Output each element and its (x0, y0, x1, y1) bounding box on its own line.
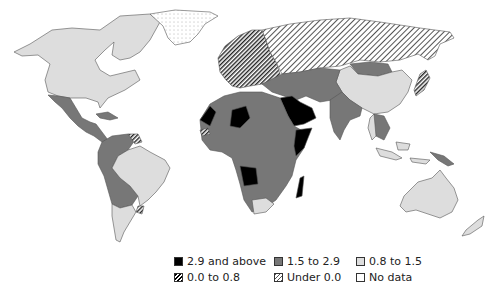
legend-item-0-8-to-1-5: 0.8 to 1.5 (356, 255, 422, 268)
region-indonesia (376, 142, 430, 164)
region-papua-new-guinea (430, 152, 454, 166)
legend-item-under-0-0: Under 0.0 (274, 271, 350, 284)
legend-swatch-black (174, 257, 183, 266)
legend-item-no-data: No data (356, 271, 412, 284)
legend-swatch-sparse-hatch (274, 273, 283, 282)
region-somalia (294, 128, 312, 156)
region-new-zealand (462, 216, 484, 236)
region-north-america (14, 14, 160, 108)
world-map (0, 0, 494, 245)
region-greenland (150, 10, 218, 45)
region-uruguay (136, 206, 144, 214)
legend-item-0-0-to-0-8: 0.0 to 0.8 (174, 271, 268, 284)
region-japan (414, 70, 430, 96)
map-legend: 2.9 and above 1.5 to 2.9 0.8 to 1.5 0.0 … (174, 253, 428, 285)
legend-row-1: 2.9 and above 1.5 to 2.9 0.8 to 1.5 (174, 253, 428, 269)
region-madagascar (296, 176, 304, 198)
region-caribbean (96, 112, 118, 120)
legend-item-2-9-and-above: 2.9 and above (174, 255, 268, 268)
region-southern-cone (112, 204, 136, 242)
legend-row-2: 0.0 to 0.8 Under 0.0 No data (174, 269, 428, 285)
legend-swatch-dark (274, 257, 283, 266)
region-australia (400, 170, 458, 218)
legend-swatch-dense-hatch (174, 273, 183, 282)
legend-swatch-light (356, 257, 365, 266)
legend-swatch-empty (356, 273, 365, 282)
legend-item-1-5-to-2-9: 1.5 to 2.9 (274, 255, 350, 268)
